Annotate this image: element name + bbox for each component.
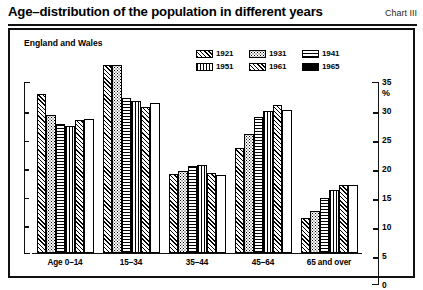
x-axis-category-label: 35–44: [164, 258, 230, 267]
bar: [244, 134, 254, 253]
bar: [37, 94, 47, 252]
y-axis-tick: [373, 170, 378, 172]
bar: [141, 107, 151, 252]
bar: [178, 171, 188, 252]
header-divider: [8, 24, 417, 26]
bar-group: [296, 54, 362, 253]
y-axis-tick-label: 5: [382, 251, 387, 261]
x-axis-category-label: 15–34: [98, 258, 164, 267]
x-axis-category-label: 65 and over: [296, 258, 362, 267]
bar: [84, 119, 94, 252]
bar: [112, 65, 122, 253]
bar-groups: [32, 54, 362, 253]
y-axis-tick: [373, 228, 378, 230]
y-axis-tick: [25, 112, 29, 114]
y-axis-right: [372, 82, 379, 285]
bar: [65, 126, 75, 253]
y-axis-tick: [373, 112, 378, 114]
chart-subtitle: England and Wales: [24, 38, 102, 48]
y-axis-tick-label: 35: [382, 77, 391, 87]
bar: [169, 174, 179, 253]
bar: [348, 185, 358, 253]
x-axis-tick-labels: Age 0–1415–3435–4445–6465 and over: [32, 258, 362, 267]
bar: [282, 110, 292, 252]
bar: [131, 101, 141, 252]
bar: [103, 65, 113, 252]
bar: [46, 115, 56, 252]
bar: [216, 175, 226, 252]
page-title: Age–distribution of the population in di…: [8, 4, 323, 19]
bar: [263, 111, 273, 252]
y-axis-tick: [25, 169, 29, 171]
y-axis-tick: [373, 199, 378, 201]
bar: [301, 218, 311, 252]
plot-area: [32, 54, 362, 254]
y-axis-tick: [25, 198, 29, 200]
bar: [75, 120, 85, 253]
bar: [329, 190, 339, 252]
bar: [207, 173, 217, 253]
bar: [310, 211, 320, 253]
bar-group: [164, 54, 230, 253]
y-axis-tick: [25, 226, 29, 228]
y-axis-unit-label: %: [382, 88, 390, 98]
bar: [197, 165, 207, 252]
bar: [188, 166, 198, 253]
x-axis-category-label: 45–64: [230, 258, 296, 267]
bar: [273, 105, 283, 252]
bar-group: [98, 54, 164, 253]
y-axis-tick-label: 15: [382, 193, 391, 203]
y-axis-left-bracket: [24, 82, 30, 254]
bar-group: [230, 54, 296, 253]
bar: [339, 185, 349, 253]
y-axis-tick: [25, 141, 29, 143]
x-axis-baseline: [32, 253, 362, 255]
chart-header: Age–distribution of the population in di…: [8, 4, 417, 24]
y-axis-tick-label: 20: [382, 164, 391, 174]
bar: [235, 148, 245, 253]
y-axis-tick-label: 0: [382, 280, 387, 290]
y-axis-tick-label: 10: [382, 222, 391, 232]
bar: [122, 98, 132, 252]
bar: [150, 103, 160, 252]
x-axis-category-label: Age 0–14: [32, 258, 98, 267]
y-axis-tick: [373, 141, 378, 143]
y-axis-tick-label: 25: [382, 135, 391, 145]
bar: [254, 117, 264, 253]
bar-group: [32, 54, 98, 253]
y-axis-tick: [373, 257, 378, 259]
bar: [56, 124, 66, 253]
chart-number-label: Chart III: [385, 8, 417, 18]
chart-frame: England and Wales 1921 1931 1941: [8, 28, 415, 278]
bar: [320, 198, 330, 252]
y-axis-tick-label: 30: [382, 106, 391, 116]
